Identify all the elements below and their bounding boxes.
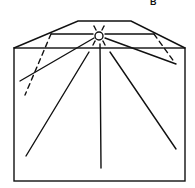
ray <box>100 44 101 168</box>
light-spark <box>103 41 105 45</box>
ray <box>110 52 176 149</box>
light-spark <box>93 41 95 45</box>
ray <box>26 52 89 156</box>
light-spark <box>102 26 104 30</box>
light-spark <box>94 26 96 30</box>
lamp-ray-diagram <box>0 0 195 188</box>
ray <box>20 38 94 81</box>
light-bulb-icon <box>95 32 103 40</box>
